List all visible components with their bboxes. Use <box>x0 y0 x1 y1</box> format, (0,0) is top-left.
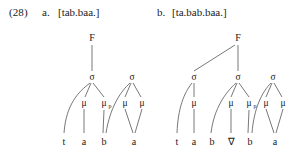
tree-b-syllable-2: σ <box>235 72 240 82</box>
tree-b-edge-foot-syllable1 <box>194 45 235 71</box>
tree-a-mora-4: μ <box>139 98 144 108</box>
tree-b-mora-3-subscript: p <box>254 103 257 109</box>
tree-a-mora-1: μ <box>81 98 86 108</box>
tree-b-segment-1: t <box>176 136 179 147</box>
tree-a-mora-3: μ <box>122 98 127 108</box>
tree-a-mora-2-subscript: p <box>109 103 112 109</box>
tree-b-syllable-1: σ <box>191 72 196 82</box>
tree-b-mora-4: μ <box>263 98 268 108</box>
tree-a: F σ σ μ μ p μ μ t a b <box>63 32 145 147</box>
tree-a-segment-1: t <box>63 136 66 147</box>
tree-a-edge-syllable1-mora2 <box>93 83 104 97</box>
tree-b-mora-2: μ <box>228 98 233 108</box>
tree-b-foot-node: F <box>235 32 241 43</box>
tree-a-edge-syllable1-mora1 <box>85 83 91 97</box>
tree-b-edge-syllable2-mora3 <box>239 83 249 97</box>
tree-b-segment-2: a <box>192 136 197 147</box>
tree-b-mora-5: μ <box>280 98 285 108</box>
tree-b-syllable-3: σ <box>270 72 275 82</box>
tree-b-edge-mora5-segment <box>276 109 283 133</box>
tree-b: F σ σ σ μ μ μ p μ μ <box>176 32 286 147</box>
tree-a-edge-syllable1-onset <box>64 83 90 133</box>
tree-a-segment-2: a <box>82 136 87 147</box>
tree-b-edge-syllable2-onset <box>211 83 236 133</box>
tree-b-segment-3: b <box>210 136 215 147</box>
tree-b-edge-mora4-segment <box>266 109 274 133</box>
tree-a-syllable-1: σ <box>89 72 94 82</box>
tree-a-edge-mora4-segment <box>135 109 142 133</box>
tree-a-segment-4: a <box>132 136 137 147</box>
tree-a-edge-mora2-segment <box>103 110 104 133</box>
prosodic-tree-diagram: F σ σ μ μ p μ μ t a b <box>0 0 297 161</box>
tree-b-segment-6: a <box>273 136 278 147</box>
tree-b-mora-1: μ <box>191 98 196 108</box>
tree-b-edge-mora3-segment <box>248 110 249 133</box>
tree-a-edge-mora3-segment <box>125 109 133 133</box>
tree-b-segment-5: b <box>248 136 253 147</box>
tree-a-segment-3: b <box>102 136 107 147</box>
tree-a-foot-node: F <box>89 32 95 43</box>
tree-a-edge-syllable2-mora4 <box>133 83 141 97</box>
tree-b-edge-syllable1-onset <box>177 83 192 133</box>
tree-b-edge-syllable3-mora5 <box>274 83 282 97</box>
tree-b-segment-4: ∇ <box>227 136 235 147</box>
tree-a-syllable-2: σ <box>129 72 134 82</box>
tree-b-mora-3: μ <box>246 98 251 108</box>
tree-a-mora-2: μ <box>101 98 106 108</box>
